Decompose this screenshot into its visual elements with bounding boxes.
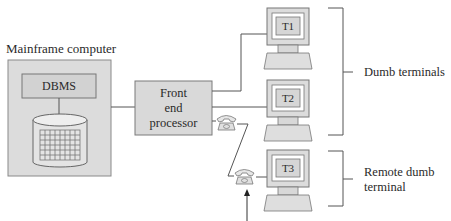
terminal-t2-label: T2 <box>276 91 300 105</box>
terminal-t3 <box>264 150 312 211</box>
terminal-t3-label: T3 <box>276 161 300 175</box>
telephone-icon <box>235 170 254 185</box>
telephone-icon <box>217 116 236 131</box>
arrow-up-icon <box>244 189 250 221</box>
terminal-t1-label: T1 <box>276 19 300 33</box>
remote-terminal-label-line2: terminal <box>364 180 406 194</box>
remote-terminal-label-line1: Remote dumb <box>364 165 434 179</box>
database-icon <box>33 114 87 167</box>
bracket-dumb-terminals <box>328 8 353 135</box>
bracket-remote-terminal <box>328 151 353 206</box>
terminal-t1 <box>264 8 312 69</box>
mainframe-label: Mainframe computer <box>6 42 116 56</box>
terminal-t2 <box>264 80 312 141</box>
fep-label-line3: processor <box>135 116 212 130</box>
fep-label-line1: Front <box>135 86 212 100</box>
fep-label-line2: end <box>135 101 212 115</box>
dumb-terminals-label: Dumb terminals <box>364 65 445 79</box>
dbms-label: DBMS <box>22 79 96 93</box>
